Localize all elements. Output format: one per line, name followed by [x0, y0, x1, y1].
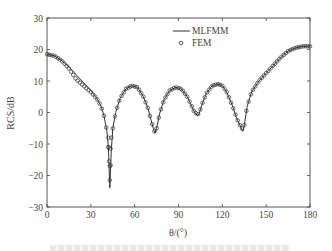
plot-area: −30−20−100102030 0306090120150180	[28, 14, 317, 221]
x-tick-label: 150	[259, 210, 274, 220]
y-tick-label: 30	[34, 14, 44, 24]
legend-label-fem: FEM	[192, 38, 212, 48]
figure-caption-cropped	[50, 245, 290, 251]
x-tick-label: 180	[303, 210, 318, 220]
rcs-chart: −30−20−100102030 0306090120150180 θ/(°) …	[0, 0, 332, 251]
y-tick-label: −10	[28, 140, 43, 150]
y-tick-label: 10	[34, 77, 44, 87]
x-tick-label: 60	[130, 210, 140, 220]
y-tick-label: 0	[38, 108, 43, 118]
x-tick-label: 90	[174, 210, 184, 220]
y-tick-label: −20	[28, 171, 43, 181]
y-tick-label: −30	[28, 203, 43, 213]
x-axis-label: θ/(°)	[169, 227, 187, 239]
y-axis-ticks: −30−20−100102030	[28, 14, 310, 213]
x-tick-label: 120	[215, 210, 230, 220]
legend-label-mlfmm: MLFMM	[192, 26, 229, 36]
x-tick-label: 30	[86, 210, 96, 220]
fem-series	[45, 45, 312, 183]
legend-circle-icon	[179, 41, 183, 45]
y-tick-label: 20	[34, 45, 44, 55]
x-tick-label: 0	[45, 210, 50, 220]
x-axis-ticks: 0306090120150180	[45, 18, 318, 220]
plot-frame	[47, 18, 310, 207]
y-axis-label: RCS/dB	[5, 96, 16, 130]
mlfmm-series	[47, 46, 310, 188]
legend: MLFMM FEM	[173, 26, 229, 48]
